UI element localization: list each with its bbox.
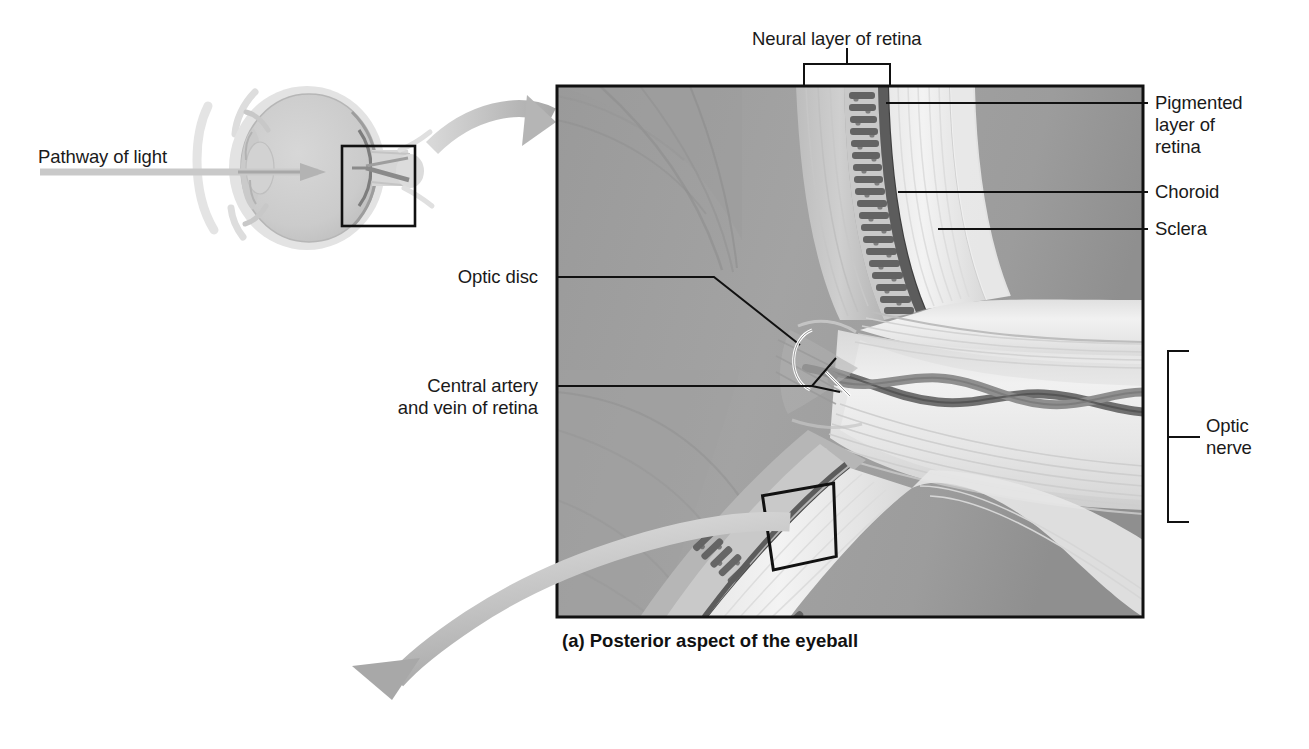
magnified-panel [557,86,1143,656]
neural-layer-bracket [804,48,890,86]
figure-root: Pathway of light Neural layer of retina … [0,0,1309,749]
label-optic-disc: Optic disc [380,266,538,288]
label-central-vessels-line2: and vein of retina [320,397,538,419]
label-central-vessels-line1: Central artery [320,375,538,397]
label-neural-layer-of-retina: Neural layer of retina [752,28,922,50]
label-pigmented-layer-line1: Pigmented [1155,92,1243,114]
label-sclera: Sclera [1155,218,1207,240]
label-choroid: Choroid [1155,181,1219,203]
label-pathway-of-light: Pathway of light [38,146,167,168]
label-optic-nerve-line1: Optic [1206,415,1249,437]
optic-nerve-bracket [1168,351,1200,522]
label-optic-nerve-line2: nerve [1206,437,1252,459]
figure-caption: (a) Posterior aspect of the eyeball [562,630,858,652]
overview-eye-diagram [40,86,432,250]
zoom-arrow-top [432,95,556,148]
label-pigmented-layer-line3: retina [1155,136,1201,158]
label-pigmented-layer-line2: layer of [1155,114,1215,136]
